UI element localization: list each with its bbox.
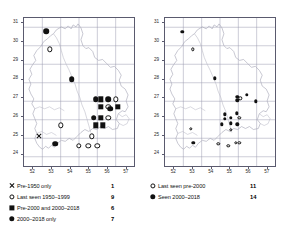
map-panel-right: 31 30 29 28 27 26 25 24 52 53 54 55 56 5… <box>141 0 282 230</box>
legend-item-count: 1 <box>111 183 114 189</box>
x-tick-label: 53 <box>186 170 198 175</box>
y-tick-mark <box>21 60 23 61</box>
y-tick-mark <box>21 116 23 117</box>
y-tick-mark <box>21 41 23 42</box>
y-tick-label: 28 <box>147 76 159 81</box>
y-tick-mark <box>162 41 164 42</box>
y-tick-label: 25 <box>6 133 18 138</box>
x-tick-mark <box>248 167 249 169</box>
y-tick-mark <box>21 154 23 155</box>
legend-item-label: Last seen pre-2000 <box>158 183 250 189</box>
x-tick-mark <box>267 167 268 169</box>
x-tick-mark <box>192 167 193 169</box>
map-point-square <box>98 97 103 102</box>
x-tick-label: 54 <box>205 170 217 175</box>
map-point-square <box>100 123 105 128</box>
y-tick-label: 30 <box>147 39 159 44</box>
y-tick-mark <box>21 79 23 80</box>
legend-item-label: Pre-1950 only <box>17 183 111 189</box>
x-tick-label: 55 <box>82 170 94 175</box>
map-point-filled <box>43 28 49 34</box>
legend-item-count: 6 <box>111 205 114 211</box>
x-tick-mark <box>32 167 33 169</box>
y-tick-label: 26 <box>147 114 159 119</box>
y-tick-mark <box>21 135 23 136</box>
y-tick-label: 25 <box>147 133 159 138</box>
y-tick-label: 31 <box>6 20 18 25</box>
y-tick-label: 27 <box>6 95 18 100</box>
x-tick-label: 54 <box>64 170 76 175</box>
y-tick-mark <box>162 135 164 136</box>
legend-item-label: Last seen 1950–1999 <box>17 194 111 200</box>
legend-item-label: Seen 2000–2018 <box>158 194 250 200</box>
cross-icon <box>6 180 17 191</box>
x-tick-label: 52 <box>26 170 38 175</box>
filled-circle-icon <box>147 191 158 202</box>
filled-square-icon <box>6 202 17 213</box>
legend-left: Pre-1950 only 1 Last seen 1950–1999 9 Pr… <box>6 180 141 224</box>
map-point-filled <box>69 76 75 82</box>
legend-item-count: 7 <box>111 216 114 222</box>
legend-item: Last seen pre-2000 11 <box>147 180 282 191</box>
legend-item: 2000–2018 only 7 <box>6 213 141 224</box>
y-tick-mark <box>162 60 164 61</box>
y-tick-label: 29 <box>6 58 18 63</box>
x-tick-label: 52 <box>167 170 179 175</box>
map-plot-area-left <box>23 17 135 167</box>
y-tick-label: 24 <box>147 151 159 156</box>
y-tick-label: 29 <box>147 58 159 63</box>
x-tick-mark <box>229 167 230 169</box>
filled-circle-icon <box>6 213 17 224</box>
legend-right: Last seen pre-2000 11 Seen 2000–2018 14 <box>147 180 282 202</box>
y-tick-label: 26 <box>6 114 18 119</box>
y-tick-mark <box>162 154 164 155</box>
x-tick-mark <box>51 167 52 169</box>
y-tick-label: 30 <box>6 39 18 44</box>
map-point-filled <box>106 97 112 103</box>
x-tick-label: 53 <box>45 170 57 175</box>
legend-item: Last seen 1950–1999 9 <box>6 191 141 202</box>
y-tick-mark <box>162 22 164 23</box>
legend-item-label: Pre-2000 and 2000–2018 <box>17 205 111 211</box>
y-tick-mark <box>162 116 164 117</box>
x-tick-mark <box>173 167 174 169</box>
map-point-square <box>98 115 103 120</box>
legend-item-count: 11 <box>250 183 256 189</box>
x-tick-mark <box>126 167 127 169</box>
y-tick-mark <box>162 97 164 98</box>
map-point-square <box>115 104 120 109</box>
x-tick-mark <box>88 167 89 169</box>
y-tick-label: 27 <box>147 95 159 100</box>
legend-item: Pre-1950 only 1 <box>6 180 141 191</box>
map-outline-right <box>165 18 275 166</box>
x-tick-label: 57 <box>120 170 132 175</box>
y-tick-label: 24 <box>6 151 18 156</box>
y-tick-mark <box>162 79 164 80</box>
x-tick-mark <box>107 167 108 169</box>
legend-item: Seen 2000–2018 14 <box>147 191 282 202</box>
legend-item: Pre-2000 and 2000–2018 6 <box>6 202 141 213</box>
y-tick-label: 31 <box>147 20 159 25</box>
map-point-square <box>98 104 103 109</box>
map-panel-left: 31 30 29 28 27 26 25 24 52 53 54 55 56 5… <box>0 0 141 230</box>
y-tick-mark <box>21 22 23 23</box>
open-circle-icon <box>147 180 158 191</box>
x-tick-mark <box>211 167 212 169</box>
legend-item-label: 2000–2018 only <box>17 216 111 222</box>
distribution-map-figure: 31 30 29 28 27 26 25 24 52 53 54 55 56 5… <box>0 0 282 230</box>
x-tick-label: 57 <box>261 170 273 175</box>
map-point-square <box>93 123 98 128</box>
map-point-filled <box>52 141 58 147</box>
x-tick-label: 56 <box>242 170 254 175</box>
x-tick-label: 56 <box>101 170 113 175</box>
legend-item-count: 14 <box>250 194 256 200</box>
map-point-filled <box>91 115 97 121</box>
x-tick-label: 55 <box>223 170 235 175</box>
legend-item-count: 9 <box>111 194 114 200</box>
x-tick-mark <box>70 167 71 169</box>
map-plot-area-right <box>164 17 276 167</box>
open-circle-icon <box>6 191 17 202</box>
y-tick-mark <box>21 97 23 98</box>
map-point-filled <box>107 106 113 112</box>
y-tick-label: 28 <box>6 76 18 81</box>
